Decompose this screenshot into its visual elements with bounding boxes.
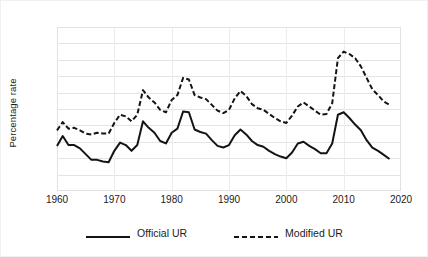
y-axis-title-text: Percentage rate bbox=[6, 53, 20, 173]
x-axis-tick: 1970 bbox=[89, 194, 139, 206]
chart-figure: Percentage rate 02468101214161820 196019… bbox=[0, 0, 428, 257]
x-axis-tick: 1960 bbox=[32, 194, 82, 206]
plot-area bbox=[57, 27, 401, 191]
x-axis-tick: 2010 bbox=[319, 194, 369, 206]
x-axis-tick: 1980 bbox=[147, 194, 197, 206]
y-axis-title: Percentage rate bbox=[6, 0, 20, 53]
legend-item-modified: Modified UR bbox=[233, 228, 343, 239]
x-axis-tick: 1990 bbox=[204, 194, 254, 206]
legend-label-modified: Modified UR bbox=[285, 228, 343, 239]
series-lines bbox=[57, 27, 401, 191]
legend-line-solid-icon bbox=[85, 228, 131, 238]
x-axis-tick-labels: 1960197019801990200020102020 bbox=[57, 194, 401, 210]
legend-item-official: Official UR bbox=[85, 228, 187, 239]
legend-line-dashed-icon bbox=[233, 228, 279, 238]
x-axis-tick: 2000 bbox=[261, 194, 311, 206]
series-line-2 bbox=[57, 52, 390, 135]
legend-label-official: Official UR bbox=[137, 228, 187, 239]
x-axis-tick: 2020 bbox=[376, 194, 426, 206]
series-line-1 bbox=[57, 111, 390, 162]
chart-legend: Official UR Modified UR bbox=[1, 222, 427, 244]
